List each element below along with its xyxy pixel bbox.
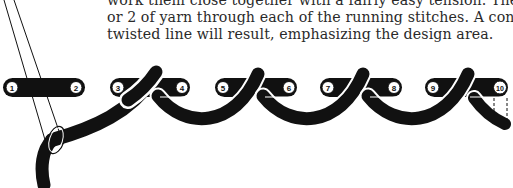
svg-text:3: 3 — [116, 84, 121, 93]
svg-text:7: 7 — [326, 84, 331, 93]
badge-2: 2 — [70, 82, 82, 94]
badge-10: 10 — [494, 81, 507, 94]
svg-text:4: 4 — [180, 84, 185, 93]
needle-thread-lines — [4, 0, 62, 150]
svg-text:1: 1 — [10, 84, 15, 93]
badge-9: 9 — [427, 82, 439, 94]
badge-8: 8 — [388, 82, 400, 94]
svg-text:9: 9 — [431, 84, 436, 93]
badge-7: 7 — [322, 82, 334, 94]
badge-6: 6 — [283, 82, 295, 94]
svg-text:8: 8 — [392, 84, 397, 93]
badge-1: 1 — [6, 82, 18, 94]
badge-5: 5 — [217, 82, 229, 94]
svg-text:6: 6 — [287, 84, 292, 93]
badge-4: 4 — [176, 82, 188, 94]
svg-text:5: 5 — [221, 84, 226, 93]
svg-text:10: 10 — [496, 85, 504, 92]
whipped-running-stitch-diagram: 1 2 3 4 5 6 7 8 9 10 — [0, 0, 513, 188]
svg-text:2: 2 — [74, 84, 79, 93]
badge-3: 3 — [112, 82, 124, 94]
